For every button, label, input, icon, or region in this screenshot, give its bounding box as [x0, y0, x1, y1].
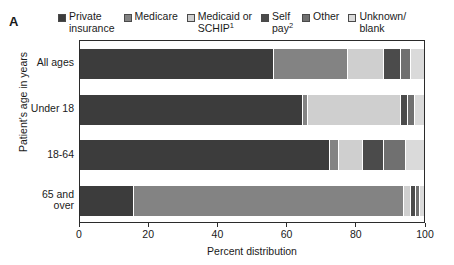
- legend-item-medicare: Medicare: [124, 11, 178, 23]
- bar-segment: [273, 49, 347, 79]
- bar-segment: [80, 95, 302, 125]
- legend-label-medicaid-or-schip: Medicaid orSCHIP1: [198, 11, 252, 34]
- bar-row: [80, 49, 424, 79]
- bar-segment: [400, 49, 410, 79]
- bar-segment: [407, 95, 414, 125]
- bar-segment: [405, 140, 424, 170]
- bar-segment: [338, 140, 362, 170]
- chart-legend: Private insuranceMedicareMedicaid orSCHI…: [58, 11, 450, 34]
- bar-row: [80, 140, 424, 170]
- x-tick: [217, 223, 218, 227]
- x-tick: [425, 223, 426, 227]
- y-axis-label: 18-64: [0, 149, 74, 161]
- bar-segment: [383, 140, 405, 170]
- bar-segment: [410, 49, 424, 79]
- bar-segment: [80, 140, 329, 170]
- bar-segment: [329, 140, 338, 170]
- legend-label-other: Other: [313, 11, 339, 23]
- x-tick-label: 80: [350, 228, 362, 240]
- legend-swatch-private-insurance: [58, 14, 66, 22]
- legend-footnote-marker-medicaid-or-schip: 1: [230, 20, 234, 29]
- x-tick: [148, 223, 149, 227]
- legend-item-medicaid-or-schip: Medicaid orSCHIP1: [187, 11, 252, 34]
- bar-segment: [80, 49, 273, 79]
- bar-segment: [403, 186, 410, 216]
- bar-segment: [400, 95, 407, 125]
- x-tick: [355, 223, 356, 227]
- legend-swatch-medicaid-or-schip: [187, 14, 195, 22]
- y-axis-labels: All agesUnder 1818-6465 and over: [0, 40, 74, 223]
- x-tick-label: 40: [212, 228, 224, 240]
- x-tick: [79, 223, 80, 227]
- bar-segment: [419, 186, 424, 216]
- x-tick: [286, 223, 287, 227]
- y-axis-label: All ages: [0, 57, 74, 69]
- x-axis-title: Percent distribution: [79, 245, 425, 257]
- legend-item-private-insurance: Private insurance: [58, 11, 115, 34]
- legend-label-medicare: Medicare: [135, 11, 178, 23]
- legend-swatch-unknown-blank: [348, 14, 356, 22]
- x-tick-label: 60: [281, 228, 293, 240]
- x-tick-label: 100: [416, 228, 434, 240]
- bar-segment: [307, 95, 400, 125]
- legend-label-private-insurance: Private insurance: [69, 11, 115, 34]
- y-axis-label: Under 18: [0, 103, 74, 115]
- bar-row: [80, 186, 424, 216]
- legend-swatch-self-pay: [261, 14, 269, 22]
- bar-segment: [133, 186, 403, 216]
- legend-footnote-marker-self-pay: 2: [289, 20, 293, 29]
- x-tick-label: 20: [142, 228, 154, 240]
- x-axis-tick-labels: 020406080100: [79, 228, 425, 242]
- legend-item-other: Other: [302, 11, 339, 23]
- legend-swatch-medicare: [124, 14, 132, 22]
- bar-segment: [347, 49, 383, 79]
- y-axis-label: 65 and over: [0, 189, 74, 212]
- chart-figure: A Private insuranceMedicareMedicaid orSC…: [0, 0, 454, 265]
- x-tick-label: 0: [76, 228, 82, 240]
- legend-label-self-pay: Selfpay2: [272, 11, 293, 34]
- plot-area: [79, 40, 425, 223]
- bar-segment: [362, 140, 383, 170]
- bar-segment: [414, 95, 424, 125]
- bar-segment: [80, 186, 133, 216]
- bar-segment: [383, 49, 400, 79]
- legend-label-unknown-blank: Unknown/ blank: [359, 11, 406, 34]
- legend-item-self-pay: Selfpay2: [261, 11, 293, 34]
- bar-row: [80, 95, 424, 125]
- legend-swatch-other: [302, 14, 310, 22]
- legend-item-unknown-blank: Unknown/ blank: [348, 11, 406, 34]
